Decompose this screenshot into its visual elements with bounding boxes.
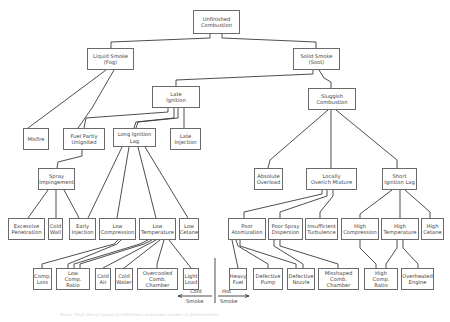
node-late-inj: Late Injection: [170, 128, 201, 150]
connector-edge: [405, 190, 430, 218]
node-heavy-fuel: Heavy Fuel: [229, 268, 247, 290]
node-high-ratio: High Comp. Ratio: [364, 268, 398, 290]
node-high-cet: High Cetane: [421, 218, 444, 240]
node-fuel-partly: Fuel Partly Unignited: [63, 128, 105, 150]
node-cold-air: Cold Air: [95, 268, 111, 290]
node-cold-wall: Cold Wall: [48, 218, 63, 240]
fault-tree-diagram: Unfinished CombustionLiquid Smoke (Fog)S…: [0, 0, 450, 322]
connector-edge: [169, 240, 191, 268]
legend-cold-label: Cold: [190, 288, 202, 294]
connector-edge: [28, 190, 48, 218]
connector-edge: [360, 240, 376, 268]
node-low-cet: Low Cetane: [179, 218, 199, 240]
connector-edge: [268, 110, 328, 168]
connector-edge: [145, 147, 188, 218]
node-poor-atom: Poor Atomization: [228, 218, 266, 240]
connector-edge: [64, 190, 79, 218]
connector-edge: [319, 70, 331, 88]
node-unfinished: Unfinished Combustion: [193, 10, 240, 34]
node-insuff-turb: Insufficient Turbulence: [305, 218, 338, 240]
node-low-ratio: Low Comp. Ratio: [56, 268, 90, 290]
node-abs-overload: Absolute Overload: [254, 168, 283, 190]
legend-cold-smoke-label: Smoke: [186, 298, 204, 304]
node-exc-pen: Excessive Penetration: [8, 218, 45, 240]
connector-edge: [78, 70, 114, 128]
node-solid: Solid Smoke (Soot): [293, 48, 340, 70]
connector-edge: [28, 70, 106, 128]
connector-edge: [111, 34, 210, 48]
connector-edge: [274, 240, 303, 268]
node-late-ign: Late Ignition: [152, 86, 200, 108]
node-overcooled: Overcooled Comb. Chamber: [137, 268, 178, 290]
connector-edge: [244, 190, 322, 218]
connector-edge: [360, 190, 392, 218]
node-poor-spray: Poor Spray Dispersion: [268, 218, 303, 240]
connector-edge: [336, 110, 397, 168]
legend-hot-label: Hot: [222, 288, 231, 294]
connector-edge: [84, 108, 168, 128]
connector-edge: [236, 240, 268, 268]
node-low-temp: Low Temperature: [139, 218, 176, 240]
node-low-comp: Low Compression: [99, 218, 136, 240]
connector-edge: [117, 147, 129, 218]
figure-caption: Figure: Fault tree of causes of unfinish…: [60, 312, 390, 316]
connector-edge: [386, 240, 397, 268]
node-def-nozzle: Defective Nozzle: [287, 268, 315, 290]
node-light-load: Light Load: [183, 268, 199, 290]
node-sluggish: Sluggish Combustion: [308, 88, 356, 110]
connector-edge: [88, 147, 122, 218]
connector-edge: [403, 240, 418, 268]
legend-hot-smoke-label: Smoke: [220, 298, 238, 304]
node-misfire: Misfire: [23, 128, 49, 150]
connector-edge: [57, 150, 82, 168]
connector-edge: [176, 70, 313, 86]
node-spray-imp: Spray Impingement: [38, 168, 75, 190]
node-def-pump: Defective Pump: [253, 268, 283, 290]
node-overheated: Overheated Engine: [401, 268, 434, 290]
node-overich: Locally Overich Mixture: [306, 168, 357, 190]
connector-edge: [222, 34, 316, 48]
connector-edge: [157, 240, 164, 268]
connector-edge: [138, 147, 156, 218]
node-high-temp: High Temperature: [381, 218, 419, 240]
node-short-lag: Short Ignition Lag: [382, 168, 417, 190]
connector-edge: [280, 240, 338, 268]
node-high-comp: High Compression: [341, 218, 379, 240]
node-early-inj: Early Injection: [69, 218, 96, 240]
node-cold-water: Cold Water: [115, 268, 133, 290]
node-liquid: Liquid Smoke (Fog): [87, 48, 134, 70]
node-long-lag: Long Ignition Lag: [113, 128, 156, 147]
node-misshaped: Misshaped Comb. Chamber: [318, 268, 359, 290]
node-comp-loss: Comp. Loss: [33, 268, 52, 290]
